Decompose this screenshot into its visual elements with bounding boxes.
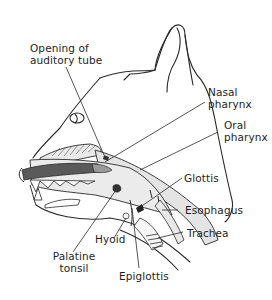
label-palatine-tonsil: Palatine tonsil [44, 250, 104, 274]
label-text: auditory tube [30, 54, 102, 66]
label-text: tonsil [44, 262, 104, 274]
label-text: pharynx [208, 98, 252, 110]
label-text: Oral [224, 119, 268, 131]
label-text: Nasal [208, 86, 252, 98]
label-oral-pharynx: Oral pharynx [224, 119, 268, 143]
anatomy-diagram: Opening of auditory tube Nasal pharynx O… [0, 0, 272, 300]
leader-oral-pharynx [140, 132, 218, 170]
leader-nasal-pharynx [105, 102, 205, 162]
label-esophagus: Esophagus [185, 204, 243, 216]
label-hyoid: Hyoid [95, 233, 126, 245]
label-text: Palatine [44, 250, 104, 262]
label-opening-auditory-tube: Opening of auditory tube [30, 42, 102, 66]
label-text: Opening of [30, 42, 102, 54]
palatine-tonsil-structure [113, 185, 121, 193]
label-epiglottis: Epiglottis [119, 270, 169, 282]
label-trachea: Trachea [187, 227, 229, 239]
label-nasal-pharynx: Nasal pharynx [208, 86, 252, 110]
label-text: pharynx [224, 131, 268, 143]
label-glottis: Glottis [184, 172, 219, 184]
